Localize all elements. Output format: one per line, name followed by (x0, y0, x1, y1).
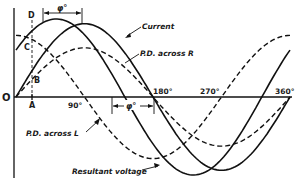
current-leader-arrow (125, 33, 131, 38)
phi-arrowhead-axis-right (148, 104, 153, 108)
tick-label-180: 180° (153, 87, 173, 96)
phi-label-top: φ° (57, 4, 67, 13)
phi-arrowhead-axis-left (113, 104, 118, 108)
tick-label-360: 360° (275, 87, 295, 96)
phi-arrowhead-right (76, 11, 81, 15)
point-c-label: C (24, 43, 30, 52)
tick-label-90: 90° (68, 101, 82, 110)
origin-label: O (2, 92, 11, 103)
phi-arrowhead-left (44, 11, 49, 15)
rl-circuit-waveform-diagram: φ° φ° O A B C D 90° 180° 270° 360° Curre… (0, 0, 300, 182)
current-label: Current (142, 22, 175, 31)
point-b-label: B (34, 76, 40, 85)
phi-label-axis: φ° (126, 102, 136, 111)
pd-across-l-label: P.D. across L (26, 129, 79, 138)
resultant-leader-arrow (154, 163, 160, 168)
resultant-voltage-label: Resultant voltage (72, 167, 147, 176)
point-a-label: A (29, 101, 36, 110)
pd-across-r-label: P.D. across R (140, 49, 194, 58)
point-d-label: D (28, 11, 35, 20)
tick-label-270: 270° (200, 87, 220, 96)
